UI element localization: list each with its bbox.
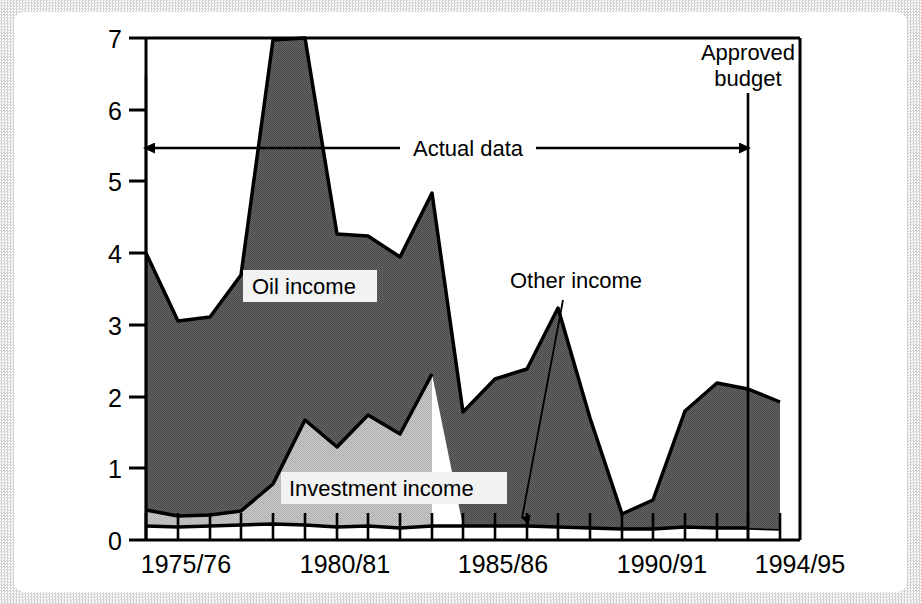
approved-budget-label-line2: budget (714, 66, 781, 91)
xtick-1980-81: 1980/81 (300, 550, 390, 578)
xtick-1975-76: 1975/76 (141, 550, 231, 578)
ytick-2: 2 (108, 384, 122, 412)
series-oil-income-budget-segment (748, 389, 780, 529)
axis-y: 7 6 5 4 3 2 1 0 (108, 25, 146, 555)
xtick-1994-95: 1994/95 (755, 550, 845, 578)
actual-data-annotation: Actual data (155, 136, 739, 161)
investment-income-annotation: Investment income (281, 472, 507, 504)
ytick-7: 7 (108, 25, 122, 53)
ytick-6: 6 (108, 97, 122, 125)
oil-income-annotation: Oil income (243, 270, 377, 302)
ytick-0: 0 (108, 527, 122, 555)
ytick-5: 5 (108, 168, 122, 196)
oil-income-label: Oil income (252, 274, 356, 299)
ytick-1: 1 (108, 455, 122, 483)
chart-canvas: 7 6 5 4 3 2 1 0 (0, 0, 921, 604)
investment-income-label: Investment income (289, 476, 474, 501)
approved-budget-label-line1: Approved (701, 40, 795, 65)
actual-data-label: Actual data (413, 136, 524, 161)
ytick-4: 4 (108, 240, 122, 268)
xtick-1990-91: 1990/91 (617, 550, 707, 578)
figure-frame: 7 6 5 4 3 2 1 0 (0, 0, 921, 604)
series-oil-income (146, 38, 748, 529)
approved-budget-annotation: Approved budget (701, 40, 795, 91)
budget-segment-fill (748, 389, 780, 529)
xtick-1985-86: 1985/86 (458, 550, 548, 578)
ytick-3: 3 (108, 312, 122, 340)
other-income-label: Other income (510, 268, 642, 293)
